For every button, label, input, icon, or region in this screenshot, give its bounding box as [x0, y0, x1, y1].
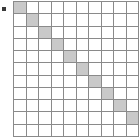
matrix-cell-empty: [39, 100, 51, 111]
matrix-cell-empty: [27, 88, 39, 99]
matrix-cell-empty: [14, 76, 26, 87]
matrix-cell-empty: [89, 63, 101, 74]
matrix-cell-empty: [114, 125, 126, 136]
matrix-cell-empty: [127, 2, 139, 13]
matrix-cell-empty: [77, 76, 89, 87]
matrix-cell-empty: [64, 39, 76, 50]
matrix-cell-empty: [64, 14, 76, 25]
matrix-cell-empty: [89, 88, 101, 99]
matrix-cell-empty: [77, 51, 89, 62]
matrix-cell-empty: [114, 76, 126, 87]
matrix-cell-empty: [64, 88, 76, 99]
matrix-cell-empty: [127, 14, 139, 25]
matrix-cell-empty: [77, 88, 89, 99]
matrix-cell-filled: [114, 100, 126, 111]
matrix-cell-empty: [114, 39, 126, 50]
matrix-cell-empty: [102, 125, 114, 136]
matrix-cell-filled: [77, 63, 89, 74]
matrix-cell-empty: [39, 125, 51, 136]
matrix-cell-empty: [127, 39, 139, 50]
matrix-cell-empty: [64, 76, 76, 87]
matrix-cell-empty: [127, 27, 139, 38]
matrix-cell-empty: [52, 27, 64, 38]
matrix-cell-empty: [102, 76, 114, 87]
matrix-cell-empty: [89, 14, 101, 25]
matrix-cell-empty: [52, 112, 64, 123]
matrix-cell-empty: [114, 27, 126, 38]
matrix-cell-empty: [14, 63, 26, 74]
square-bullet-icon: [2, 7, 6, 11]
matrix-cell-empty: [64, 63, 76, 74]
matrix-figure: [0, 0, 140, 138]
matrix-cell-empty: [14, 14, 26, 25]
matrix-cell-filled: [39, 27, 51, 38]
matrix-cell-empty: [89, 2, 101, 13]
matrix-cell-empty: [52, 63, 64, 74]
matrix-cell-empty: [39, 76, 51, 87]
matrix-cell-empty: [77, 14, 89, 25]
matrix-cell-empty: [77, 100, 89, 111]
matrix-cell-empty: [114, 14, 126, 25]
matrix-cell-empty: [39, 51, 51, 62]
matrix-cell-empty: [64, 112, 76, 123]
matrix-cell-empty: [14, 39, 26, 50]
matrix-cell-filled: [89, 76, 101, 87]
matrix-cell-empty: [52, 100, 64, 111]
matrix-cell-filled: [14, 2, 26, 13]
matrix-cell-empty: [52, 76, 64, 87]
matrix-cell-empty: [27, 100, 39, 111]
matrix-cell-empty: [39, 112, 51, 123]
matrix-cell-empty: [64, 100, 76, 111]
matrix-cell-empty: [77, 125, 89, 136]
matrix-cell-empty: [114, 112, 126, 123]
matrix-cell-empty: [77, 2, 89, 13]
matrix-cell-filled: [52, 39, 64, 50]
matrix-cell-empty: [127, 125, 139, 136]
matrix-cell-empty: [114, 63, 126, 74]
matrix-cell-filled: [102, 88, 114, 99]
matrix-cell-empty: [89, 27, 101, 38]
matrix-cell-empty: [102, 112, 114, 123]
matrix-cell-filled: [27, 14, 39, 25]
matrix-cell-empty: [27, 51, 39, 62]
matrix-cell-empty: [127, 51, 139, 62]
matrix-cell-empty: [102, 2, 114, 13]
matrix-cell-empty: [102, 51, 114, 62]
matrix-cell-empty: [114, 88, 126, 99]
matrix-cell-empty: [39, 14, 51, 25]
matrix-cell-empty: [27, 63, 39, 74]
matrix-cell-empty: [27, 125, 39, 136]
matrix-cell-empty: [52, 14, 64, 25]
matrix-cell-empty: [102, 100, 114, 111]
matrix-cell-empty: [89, 125, 101, 136]
matrix-cell-empty: [14, 112, 26, 123]
matrix-grid: [13, 1, 139, 137]
matrix-cell-empty: [14, 51, 26, 62]
matrix-cell-empty: [27, 2, 39, 13]
matrix-cell-empty: [52, 51, 64, 62]
matrix-cell-empty: [27, 112, 39, 123]
matrix-cell-empty: [52, 125, 64, 136]
matrix-cell-empty: [89, 39, 101, 50]
matrix-cell-empty: [114, 51, 126, 62]
matrix-cell-empty: [64, 2, 76, 13]
matrix-cell-empty: [14, 125, 26, 136]
matrix-cell-filled: [127, 112, 139, 123]
matrix-cell-empty: [89, 51, 101, 62]
matrix-cell-empty: [127, 88, 139, 99]
matrix-cell-empty: [89, 112, 101, 123]
matrix-cell-empty: [102, 27, 114, 38]
matrix-cell-empty: [77, 39, 89, 50]
matrix-cell-empty: [77, 112, 89, 123]
matrix-cell-empty: [14, 88, 26, 99]
matrix-cell-empty: [127, 76, 139, 87]
matrix-cell-empty: [127, 100, 139, 111]
matrix-cell-empty: [52, 2, 64, 13]
matrix-cell-empty: [39, 63, 51, 74]
matrix-cell-empty: [14, 100, 26, 111]
matrix-cell-empty: [102, 14, 114, 25]
matrix-cell-empty: [127, 63, 139, 74]
matrix-cell-empty: [89, 100, 101, 111]
matrix-cell-empty: [27, 27, 39, 38]
matrix-cell-filled: [64, 51, 76, 62]
